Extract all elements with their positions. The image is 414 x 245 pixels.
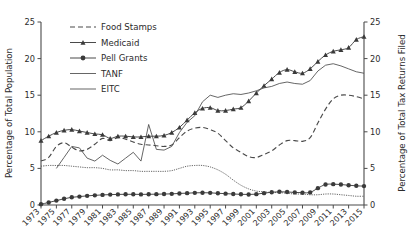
right-axis: 0510152025 xyxy=(364,17,380,210)
chart-container: 0510152025 0510152025 197319751977197919… xyxy=(0,0,414,245)
legend-label: Medicaid xyxy=(101,38,139,48)
series-pell-grants xyxy=(39,182,366,207)
data-point-marker xyxy=(185,191,189,195)
data-point-marker xyxy=(316,186,320,190)
data-point-marker xyxy=(216,191,220,195)
data-point-marker xyxy=(323,182,327,186)
data-point-marker xyxy=(254,192,258,196)
data-point-marker xyxy=(323,52,328,57)
data-point-marker xyxy=(39,138,44,143)
data-point-marker xyxy=(77,194,81,198)
left-axis-title: Percentage of Total Population xyxy=(4,48,14,178)
data-point-marker xyxy=(146,192,150,196)
x-tick-label: 2015 xyxy=(344,207,365,228)
data-point-marker xyxy=(208,191,212,195)
data-point-marker xyxy=(39,202,43,206)
data-point-marker xyxy=(100,193,104,197)
legend-label: EITC xyxy=(101,84,120,94)
data-point-marker xyxy=(200,191,204,195)
x-axis: 1973197519771979198119831985198719891991… xyxy=(21,205,365,228)
data-point-marker xyxy=(70,195,74,199)
data-point-marker xyxy=(62,197,66,201)
series-food-stamps xyxy=(41,95,364,161)
data-point-marker xyxy=(123,192,127,196)
series-eitc xyxy=(56,64,364,169)
y-tick-label: 25 xyxy=(25,17,35,27)
legend-item-pell-grants[interactable]: Pell Grants xyxy=(70,53,148,63)
legend-item-eitc[interactable]: EITC xyxy=(70,84,120,94)
data-point-marker xyxy=(131,192,135,196)
y2-tick-label: 5 xyxy=(370,163,375,173)
data-point-marker xyxy=(346,183,350,187)
y2-tick-label: 0 xyxy=(370,200,375,210)
data-point-marker xyxy=(339,182,343,186)
y-tick-label: 20 xyxy=(25,54,35,64)
y-tick-label: 15 xyxy=(25,90,35,100)
chart-legend: Food StampsMedicaidPell GrantsTANFEITC xyxy=(70,22,157,94)
data-point-marker xyxy=(116,192,120,196)
data-point-marker xyxy=(162,192,166,196)
data-point-marker xyxy=(108,192,112,196)
right-axis-title: Percentage of Total Tax Returns Filed xyxy=(397,34,407,191)
y2-tick-label: 20 xyxy=(370,54,380,64)
data-point-marker xyxy=(238,105,243,110)
legend-label: Food Stamps xyxy=(101,22,157,32)
data-point-marker xyxy=(277,70,282,75)
y2-tick-label: 10 xyxy=(370,127,380,137)
legend-item-medicaid[interactable]: Medicaid xyxy=(70,38,139,48)
y2-tick-label: 15 xyxy=(370,90,380,100)
line-chart: 0510152025 0510152025 197319751977197919… xyxy=(0,0,414,245)
data-point-marker xyxy=(170,192,174,196)
data-point-marker xyxy=(362,184,366,188)
data-point-marker xyxy=(193,191,197,195)
data-point-marker xyxy=(277,190,281,194)
data-point-marker xyxy=(177,191,181,195)
legend-marker-circle xyxy=(81,56,86,61)
legend-item-food-stamps[interactable]: Food Stamps xyxy=(70,22,157,32)
data-point-marker xyxy=(154,192,158,196)
y-tick-label: 5 xyxy=(30,163,35,173)
plot-series-group xyxy=(39,34,367,206)
data-point-marker xyxy=(354,184,358,188)
data-point-marker xyxy=(169,130,174,135)
y2-tick-label: 25 xyxy=(370,17,380,27)
data-point-marker xyxy=(139,192,143,196)
data-point-marker xyxy=(46,200,50,204)
data-point-marker xyxy=(246,192,250,196)
data-point-marker xyxy=(239,192,243,196)
data-point-marker xyxy=(223,191,227,195)
data-point-marker xyxy=(308,190,312,194)
data-point-marker xyxy=(331,182,335,186)
data-point-marker xyxy=(93,193,97,197)
y-tick-label: 10 xyxy=(25,127,35,137)
legend-label: Pell Grants xyxy=(101,53,148,63)
data-point-marker xyxy=(85,194,89,198)
series-medicaid xyxy=(39,34,367,143)
data-point-marker xyxy=(362,34,367,39)
legend-label: TANF xyxy=(100,69,123,79)
data-point-marker xyxy=(354,37,359,42)
data-point-marker xyxy=(46,134,51,139)
left-axis: 0510152025 xyxy=(25,17,41,210)
data-point-marker xyxy=(231,192,235,196)
data-point-marker xyxy=(54,198,58,202)
legend-item-tanf[interactable]: TANF xyxy=(70,69,123,79)
